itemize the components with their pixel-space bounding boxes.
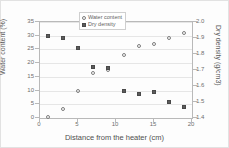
- y-axis-left-tick-mark: [35, 48, 39, 49]
- y-axis-right-tick-mark: [193, 21, 197, 22]
- x-axis-tick-mark: [191, 119, 192, 123]
- x-axis-tick-mark: [77, 119, 78, 123]
- gridline-horizontal: [40, 91, 192, 92]
- y-axis-right-tick-label: 1.4: [196, 114, 216, 120]
- y-axis-right-tick-mark: [193, 69, 197, 70]
- data-point-water-content: [91, 71, 95, 75]
- y-axis-right-tick-label: 1.6: [196, 82, 216, 88]
- legend-item-dry-density: Dry density: [82, 21, 122, 28]
- y-axis-left-tick-mark: [35, 21, 39, 22]
- y-axis-left-tick-label: 15: [16, 73, 34, 79]
- data-point-water-content: [61, 107, 65, 111]
- y-axis-right-tick-label: 1.8: [196, 50, 216, 56]
- y-axis-left-tick-mark: [35, 35, 39, 36]
- legend-label-dry-density: Dry density: [88, 21, 116, 28]
- chart-figure: Water content (%) Dry density (g/cm3) Di…: [0, 0, 229, 148]
- y-axis-left-tick-label: 5: [16, 100, 34, 106]
- y-axis-right-tick-mark: [193, 85, 197, 86]
- data-point-dry-density: [76, 46, 80, 50]
- data-point-water-content: [152, 42, 156, 46]
- y-axis-left-tick-mark: [35, 76, 39, 77]
- data-point-dry-density: [106, 66, 110, 70]
- chart-legend: Water content Dry density: [79, 12, 126, 30]
- gridline-horizontal: [40, 63, 192, 64]
- x-axis-tick-mark: [153, 119, 154, 123]
- plot-area: [39, 21, 193, 119]
- legend-item-water-content: Water content: [82, 14, 122, 21]
- y-axis-right-tick-mark: [193, 117, 197, 118]
- y-axis-left-tick-mark: [35, 103, 39, 104]
- data-point-dry-density: [152, 90, 156, 94]
- y-axis-right-tick-label: 1.5: [196, 98, 216, 104]
- data-point-water-content: [76, 89, 80, 93]
- x-axis-title: Distance from the heater (cm): [1, 133, 228, 142]
- data-point-dry-density: [61, 36, 65, 40]
- data-point-dry-density: [167, 100, 171, 104]
- y-axis-left-tick-label: 10: [16, 87, 34, 93]
- y-axis-left-tick-mark: [35, 62, 39, 63]
- y-axis-left-tick-mark: [35, 90, 39, 91]
- gridline-horizontal: [40, 104, 192, 105]
- y-axis-right-tick-label: 1.9: [196, 34, 216, 40]
- y-axis-right-tick-mark: [193, 37, 197, 38]
- y-axis-right-tick-mark: [193, 53, 197, 54]
- y-axis-left-tick-label: 25: [16, 45, 34, 51]
- y-axis-right-tick-mark: [193, 101, 197, 102]
- y-axis-left-tick-mark: [35, 117, 39, 118]
- gridline-horizontal: [40, 49, 192, 50]
- data-point-dry-density: [91, 65, 95, 69]
- x-axis-tick-mark: [39, 119, 40, 123]
- filled-square-marker-icon: [82, 23, 86, 27]
- y-axis-left-tick-label: 30: [16, 32, 34, 38]
- data-point-water-content: [167, 36, 171, 40]
- data-point-dry-density: [122, 89, 126, 93]
- y-axis-right-title: Dry density (g/cm3): [215, 25, 222, 86]
- data-point-water-content: [137, 44, 141, 48]
- y-axis-left-tick-label: 20: [16, 59, 34, 65]
- data-point-water-content: [182, 31, 186, 35]
- data-point-dry-density: [182, 105, 186, 109]
- y-axis-left-tick-label: 0: [16, 114, 34, 120]
- gridline-horizontal: [40, 77, 192, 78]
- x-axis-tick-mark: [115, 119, 116, 123]
- y-axis-right-tick-label: 2.0: [196, 18, 216, 24]
- data-point-water-content: [122, 53, 126, 57]
- y-axis-left-tick-label: 35: [16, 18, 34, 24]
- y-axis-right-tick-label: 1.7: [196, 66, 216, 72]
- data-point-dry-density: [46, 34, 50, 38]
- legend-label-water-content: Water content: [88, 14, 122, 21]
- open-circle-marker-icon: [82, 16, 86, 20]
- data-point-dry-density: [137, 92, 141, 96]
- y-axis-left-title: Water content (%): [0, 19, 6, 75]
- data-point-water-content: [46, 115, 50, 119]
